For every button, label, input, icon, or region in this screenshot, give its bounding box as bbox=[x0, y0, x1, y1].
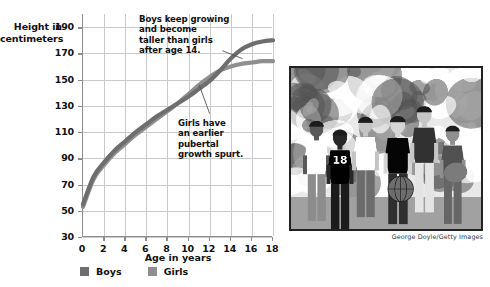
x-axis-title: Age in years bbox=[82, 252, 274, 263]
y-tick-mark bbox=[78, 237, 82, 238]
photo-credit-caption: George Doyle/Getty Images bbox=[289, 233, 483, 241]
y-axis-title-line-2: centimeters bbox=[0, 33, 62, 45]
y-tick-mark bbox=[78, 106, 82, 107]
y-tick-label: 170 bbox=[48, 47, 74, 58]
y-tick-label: 190 bbox=[48, 21, 74, 32]
photo-block bbox=[289, 66, 483, 231]
annotation-girls-line-1: Girls have bbox=[178, 118, 248, 128]
y-tick-mark bbox=[78, 53, 82, 54]
y-tick-mark bbox=[78, 27, 82, 28]
legend-item-boys: Boys bbox=[80, 266, 122, 277]
y-tick-label: 130 bbox=[48, 100, 74, 111]
annotation-boys: Boys keep growing and become taller than… bbox=[139, 14, 243, 55]
annotation-girls: Girls have an earlier pubertal growth sp… bbox=[178, 118, 248, 159]
photo-frame bbox=[289, 66, 483, 231]
y-tick-mark bbox=[78, 185, 82, 186]
x-tick-mark bbox=[230, 237, 231, 241]
leader-line-girls bbox=[199, 85, 210, 114]
y-tick-mark bbox=[78, 132, 82, 133]
annotation-boys-line-4: after age 14. bbox=[139, 45, 243, 55]
x-tick-mark bbox=[145, 237, 146, 241]
chart-legend: BoysGirls bbox=[80, 266, 188, 277]
y-tick-label: 50 bbox=[48, 205, 74, 216]
annotation-girls-line-2: an earlier bbox=[178, 128, 248, 138]
x-tick-mark bbox=[103, 237, 104, 241]
x-tick-mark bbox=[209, 237, 210, 241]
gridline-vertical bbox=[273, 14, 274, 236]
annotation-girls-line-4: growth spurt. bbox=[178, 149, 248, 159]
y-tick-label: 70 bbox=[48, 179, 74, 190]
x-tick-mark bbox=[166, 237, 167, 241]
legend-swatch-girls bbox=[148, 267, 157, 276]
x-tick-mark bbox=[124, 237, 125, 241]
y-tick-label: 90 bbox=[48, 152, 74, 163]
legend-label-girls: Girls bbox=[164, 266, 189, 277]
legend-item-girls: Girls bbox=[148, 266, 189, 277]
y-tick-label: 110 bbox=[48, 126, 74, 137]
y-tick-mark bbox=[78, 80, 82, 81]
y-tick-mark bbox=[78, 158, 82, 159]
x-tick-mark bbox=[188, 237, 189, 241]
legend-label-boys: Boys bbox=[96, 266, 122, 277]
x-tick-mark bbox=[251, 237, 252, 241]
annotation-girls-line-3: pubertal bbox=[178, 139, 248, 149]
y-tick-label: 150 bbox=[48, 74, 74, 85]
annotation-boys-line-1: Boys keep growing bbox=[139, 14, 243, 24]
group-of-teenagers-photo bbox=[291, 68, 481, 229]
x-tick-mark bbox=[272, 237, 273, 241]
y-tick-label: 30 bbox=[48, 231, 74, 242]
legend-swatch-boys bbox=[80, 267, 89, 276]
gridline-horizontal bbox=[83, 237, 272, 238]
annotation-boys-line-3: taller than girls bbox=[139, 35, 243, 45]
annotation-boys-line-2: and become bbox=[139, 24, 243, 34]
y-tick-mark bbox=[78, 211, 82, 212]
